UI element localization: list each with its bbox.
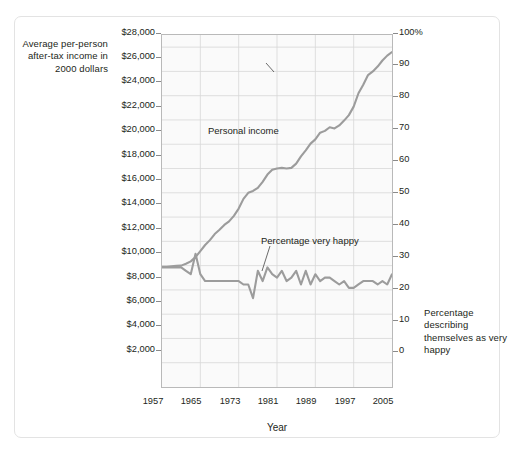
y-axis-left-tick-label: $10,000 — [99, 246, 155, 256]
y-axis-left-tick-label: $12,000 — [99, 222, 155, 232]
annotation-personal-income: Personal income — [208, 125, 279, 136]
y-axis-right-tick-mark — [393, 256, 398, 257]
y-axis-left-tick-label: $28,000 — [99, 27, 155, 37]
y-axis-right-tick-label: 80 — [399, 90, 409, 100]
y-axis-right-tick-label: 60 — [399, 154, 409, 164]
y-axis-left-tick-label: $4,000 — [99, 319, 155, 329]
y-axis-left-tick-label: $16,000 — [99, 173, 155, 183]
chart-figure: Average per-person after-tax income in 2… — [0, 0, 514, 455]
right-axis-title: Percentage describing themselves as very… — [424, 307, 510, 356]
x-axis-tick-label: 1989 — [286, 396, 326, 406]
y-axis-right-tick-label: 20 — [399, 282, 409, 292]
y-axis-left-tick-label: $20,000 — [99, 124, 155, 134]
y-axis-right-tick-mark — [393, 288, 398, 289]
y-axis-right-tick-mark — [393, 64, 398, 65]
gridlines — [162, 35, 392, 387]
x-axis-tick-label: 1997 — [325, 396, 365, 406]
y-axis-right-tick-mark — [393, 320, 398, 321]
left-axis-title: Average per-person after-tax income in 2… — [18, 38, 108, 75]
x-axis-tick-label: 2005 — [363, 396, 403, 406]
y-axis-right-tick-label: 0 — [399, 345, 404, 355]
y-axis-right-tick-mark — [393, 351, 398, 352]
leader-line-personal-income — [266, 63, 274, 72]
x-axis-tick-label: 1957 — [133, 396, 173, 406]
y-axis-right-tick-mark — [393, 96, 398, 97]
y-axis-left-tick-label: $22,000 — [99, 100, 155, 110]
y-axis-left-tick-label: $6,000 — [99, 295, 155, 305]
plot-area — [161, 34, 393, 388]
y-axis-right-tick-label: 30 — [399, 250, 409, 260]
x-axis-title: Year — [161, 422, 393, 433]
x-axis-tick-label: 1981 — [248, 396, 288, 406]
x-axis-tick-label: 1965 — [171, 396, 211, 406]
y-axis-right-tick-mark — [393, 224, 398, 225]
y-axis-right-tick-label: 90 — [399, 58, 409, 68]
y-axis-right-tick-mark — [393, 128, 398, 129]
y-axis-left-tick-label: $26,000 — [99, 51, 155, 61]
x-axis-tick-label: 1973 — [210, 396, 250, 406]
y-axis-left-tick-label: $8,000 — [99, 271, 155, 281]
y-axis-right-tick-mark — [393, 192, 398, 193]
y-axis-right-tick-mark — [393, 33, 398, 34]
y-axis-right-tick-mark — [393, 160, 398, 161]
y-axis-right-tick-label: 100% — [399, 27, 423, 37]
chart-canvas — [162, 35, 392, 387]
y-axis-right-tick-label: 50 — [399, 186, 409, 196]
leader-line-percentage-happy — [262, 246, 270, 271]
y-axis-left-tick-label: $18,000 — [99, 149, 155, 159]
y-axis-right-tick-label: 70 — [399, 122, 409, 132]
y-axis-left-tick-label: $14,000 — [99, 197, 155, 207]
y-axis-left-tick-label: $24,000 — [99, 75, 155, 85]
annotation-percentage-very-happy: Percentage very happy — [261, 235, 359, 246]
y-axis-right-tick-label: 40 — [399, 218, 409, 228]
y-axis-left-tick-label: $2,000 — [99, 344, 155, 354]
y-axis-right-tick-label: 10 — [399, 314, 409, 324]
